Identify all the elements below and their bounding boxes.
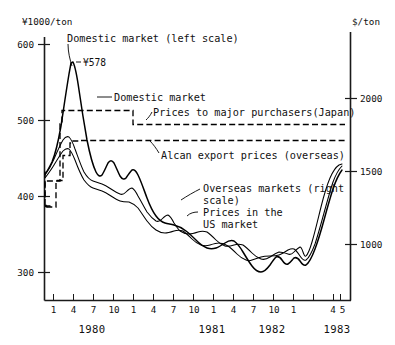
x-axis-ticks [54,294,341,301]
left-axis-unit-label: ¥1000/ton [22,16,72,27]
left-tick-label-600: 600 [17,39,34,50]
right-tick-label-1500: 1500 [360,166,382,177]
leader-alcan [150,141,159,153]
year-label-1981: 1981 [198,323,225,335]
leader-overseas [181,189,200,200]
leader-domestic-left-scale [68,44,72,66]
left-tick-label-500: 500 [17,115,34,126]
x-tick-label-9: 1 [211,304,217,315]
annotation-alcan-export: Alcan export prices (overseas) [161,150,345,161]
x-tick-label-14: 4 [330,304,336,315]
x-tick-label-3: 7 [91,304,97,315]
annotation-overseas-markets-line1: Overseas markets (right [203,183,344,194]
annotation-us-market-line1: Prices in the [203,207,283,218]
annotation-japan-purchasers: Prices to major purchasers(Japan) [153,107,355,118]
aluminium-price-chart: ¥1000/ton $/ton 600 500 400 300 2000 150… [0,0,395,345]
x-tick-label-8: 10 [188,304,199,315]
annotation-domestic-market: Domestic market [114,92,206,103]
x-tick-label-4: 10 [108,304,119,315]
left-tick-label-400: 400 [17,191,34,202]
year-label-1980: 1980 [78,323,105,335]
year-labels: 1980 1981 1982 1983 [78,323,350,335]
x-tick-label-2: 4 [71,304,77,315]
annotation-us-market-line2: US market [203,219,258,230]
chart-plot-area: ¥1000/ton $/ton 600 500 400 300 2000 150… [0,0,395,345]
x-tick-label-7: 7 [171,304,177,315]
annotation-overseas-markets-line2: scale) [203,195,240,206]
year-label-1983: 1983 [323,323,350,335]
leader-japan [146,112,152,120]
x-tick-labels: 1 4 7 10 1 4 7 10 1 4 7 10 1 4 5 [51,304,346,315]
right-tick-label-1000: 1000 [360,239,382,250]
left-tick-label-300: 300 [17,267,34,278]
x-tick-label-13: 1 [291,304,297,315]
x-tick-label-11: 7 [251,304,257,315]
right-tick-label-2000: 2000 [360,93,382,104]
us-market-curve [45,149,342,261]
annotation-domestic-left-scale: Domestic market (left scale) [67,33,239,44]
x-tick-label-6: 4 [151,304,157,315]
x-tick-label-12: 10 [268,304,279,315]
x-tick-label-1: 1 [51,304,57,315]
leader-us-market [187,212,198,216]
x-tick-label-15: 5 [340,304,346,315]
annotation-peak-value: ¥578 [83,57,106,68]
x-tick-label-10: 4 [231,304,237,315]
right-axis-unit-label: $/ton [352,16,380,27]
x-tick-label-5: 1 [131,304,137,315]
year-label-1982: 1982 [258,323,285,335]
